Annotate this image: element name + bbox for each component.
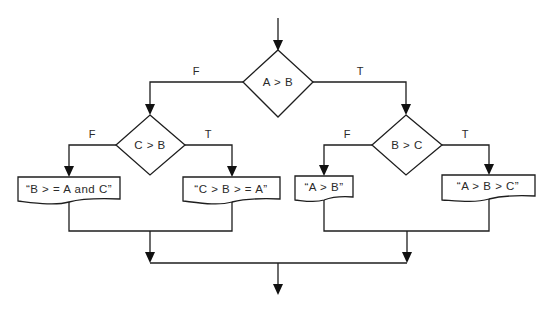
branch-label-false: F	[89, 128, 96, 140]
output-b-ge-a-and-c: “B > = A and C”	[18, 177, 120, 204]
branch-label-false: F	[344, 128, 351, 140]
decision-b-gt-c: B > C	[372, 115, 442, 175]
edge-d1-true: T	[313, 65, 411, 115]
branch-label-true: T	[205, 128, 212, 140]
merge-right	[324, 199, 489, 263]
output-a-gt-b-gt-c-label: “A > B > C”	[457, 180, 519, 192]
output-a-gt-b: “A > B”	[295, 176, 353, 202]
edge-d3-false: F	[319, 128, 372, 176]
edge-d1-false: F	[145, 65, 243, 115]
entry-arrow	[273, 18, 283, 51]
merge-left	[69, 202, 232, 263]
decision-c-gt-b: C > B	[116, 115, 185, 175]
decision-b-gt-c-label: B > C	[391, 139, 423, 151]
output-b-ge-a-and-c-label: “B > = A and C”	[26, 183, 112, 195]
edge-d2-true: T	[185, 128, 237, 177]
branch-label-false: F	[193, 65, 200, 77]
decision-a-gt-b: A > B	[243, 50, 313, 117]
output-a-gt-b-gt-c: “A > B > C”	[442, 175, 535, 201]
output-a-gt-b-label: “A > B”	[305, 181, 344, 193]
decision-c-gt-b-label: C > B	[134, 139, 166, 151]
branch-label-true: T	[357, 65, 364, 77]
flowchart-canvas: A > B F T C > B F T B > C F	[0, 0, 552, 315]
branch-label-true: T	[462, 128, 469, 140]
output-c-gt-b-ge-a-label: “C > B > = A”	[194, 183, 267, 195]
output-c-gt-b-ge-a: “C > B > = A”	[183, 177, 280, 204]
decision-a-gt-b-label: A > B	[263, 76, 293, 88]
edge-d2-false: F	[64, 128, 116, 177]
edge-d3-true: T	[442, 128, 494, 175]
exit-arrow	[150, 263, 407, 295]
